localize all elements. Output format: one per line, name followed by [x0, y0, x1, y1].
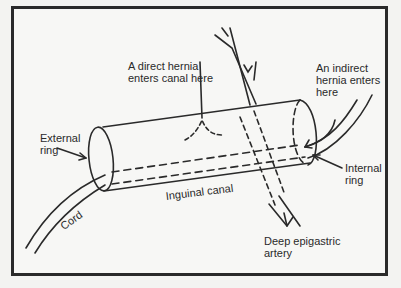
deep-epigastric-artery-label: Deep epigastric artery [264, 235, 340, 259]
external-ring-label: External ring [40, 132, 80, 156]
spermatic-cord [26, 95, 372, 253]
internal-ring-label: Internal ring [345, 162, 382, 186]
indirect-hernia-label: An indirect hernia enters here [316, 62, 380, 98]
direct-hernia-label: A direct hernia enters canal here [128, 60, 213, 84]
deep-epigastric-artery-upper [215, 28, 256, 105]
